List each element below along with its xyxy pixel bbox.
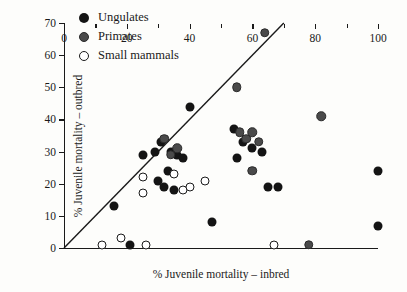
x-tick-label: 80 — [309, 32, 321, 44]
data-point — [207, 218, 216, 227]
legend-marker-icon — [79, 13, 89, 23]
data-point — [270, 240, 279, 249]
y-tick-label: 70 — [45, 17, 57, 29]
data-point — [169, 170, 178, 179]
legend-item: Primates — [79, 27, 179, 46]
legend-item: Small mammals — [79, 46, 179, 65]
data-point — [138, 150, 147, 159]
data-point — [273, 182, 282, 191]
chart-legend: UngulatesPrimatesSmall mammals — [79, 8, 179, 65]
x-minor-tick-mark — [221, 24, 222, 28]
x-minor-tick-mark — [347, 24, 348, 28]
x-tick-label: 0 — [61, 32, 67, 44]
x-tick-mark — [252, 24, 253, 29]
data-point — [232, 154, 241, 163]
y-tick-label: 50 — [45, 81, 57, 93]
data-point — [141, 240, 150, 249]
legend-label: Primates — [98, 29, 142, 44]
data-point — [257, 147, 266, 156]
y-tick-label: 40 — [45, 113, 57, 125]
y-tick-label: 60 — [45, 49, 57, 61]
y-tick-mark — [59, 184, 64, 185]
data-point — [264, 182, 273, 191]
y-tick-mark — [59, 119, 64, 120]
data-point — [138, 173, 147, 182]
data-point — [254, 137, 264, 147]
legend-label: Ungulates — [98, 10, 149, 25]
x-tick-label: 100 — [369, 32, 386, 44]
data-point — [110, 202, 119, 211]
data-point — [138, 189, 147, 198]
y-tick-mark — [59, 152, 64, 153]
data-point — [169, 186, 178, 195]
data-point — [179, 154, 188, 163]
y-tick-mark — [59, 55, 64, 56]
data-point — [160, 134, 170, 144]
data-point — [97, 240, 106, 249]
x-minor-tick-mark — [284, 24, 285, 28]
data-point — [116, 234, 125, 243]
y-tick-label: 20 — [45, 178, 57, 190]
data-point — [172, 144, 182, 154]
y-tick-mark — [59, 87, 64, 88]
y-tick-label: 0 — [50, 242, 56, 254]
data-point — [201, 176, 210, 185]
data-point — [248, 128, 258, 138]
data-point — [125, 240, 134, 249]
y-tick-label: 10 — [45, 210, 57, 222]
x-tick-label: 40 — [184, 32, 196, 44]
data-point — [232, 83, 242, 93]
legend-marker-icon — [79, 32, 89, 42]
data-point — [374, 221, 383, 230]
x-axis-title: % Juvenile mortality – inbred — [64, 268, 378, 280]
data-point — [304, 240, 314, 250]
x-tick-mark — [190, 24, 191, 29]
data-point — [151, 147, 160, 156]
x-tick-mark — [315, 24, 316, 29]
legend-marker-icon — [79, 51, 89, 61]
x-tick-mark — [64, 24, 65, 29]
data-point — [185, 182, 194, 191]
y-tick-mark — [59, 248, 64, 249]
data-point — [160, 182, 169, 191]
x-tick-mark — [378, 24, 379, 29]
y-tick-mark — [59, 216, 64, 217]
x-axis-line — [64, 248, 378, 249]
x-tick-label: 60 — [247, 32, 259, 44]
data-point — [185, 102, 194, 111]
legend-label: Small mammals — [98, 48, 179, 63]
data-point — [317, 111, 327, 121]
data-point — [374, 166, 383, 175]
legend-item: Ungulates — [79, 8, 179, 27]
y-tick-label: 30 — [45, 146, 57, 158]
data-point — [260, 28, 270, 38]
scatter-plot-figure: % Juvenile mortality – outbred % Juvenil… — [0, 0, 407, 292]
data-point — [248, 166, 258, 176]
